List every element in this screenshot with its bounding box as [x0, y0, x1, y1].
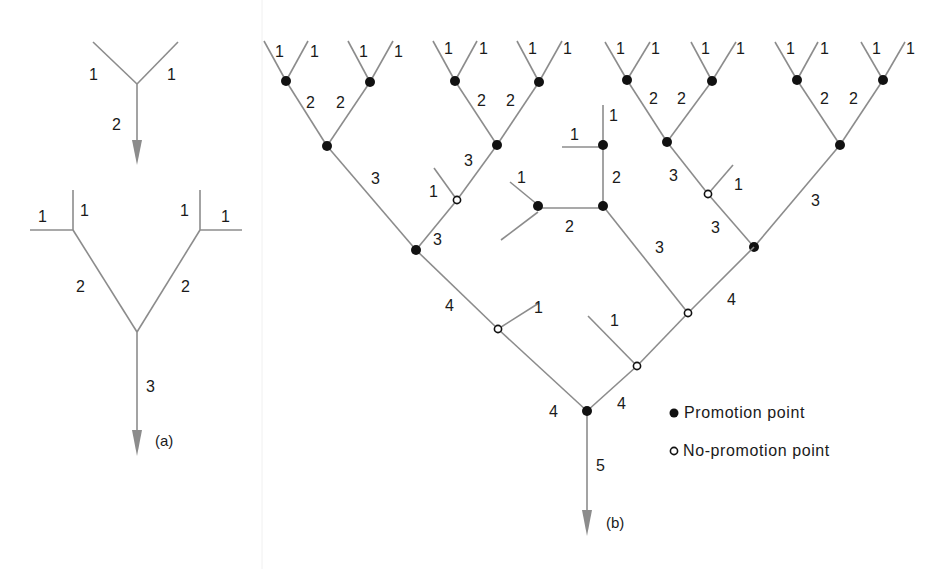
no-promotion-point [633, 362, 640, 369]
edge [539, 41, 562, 82]
label: 1 [563, 40, 572, 57]
label: 3 [146, 378, 155, 395]
label: 1 [310, 43, 319, 60]
subtree-middle: 1 1 2 1 2 3 [501, 105, 688, 313]
edge [498, 329, 587, 411]
edge [501, 212, 538, 240]
edge [455, 41, 477, 81]
label: 2 [565, 218, 574, 235]
label: 4 [617, 395, 626, 412]
label: 1 [38, 208, 47, 225]
label: 1 [786, 40, 795, 57]
edge [327, 82, 370, 146]
label: 1 [444, 40, 453, 57]
edge [286, 41, 308, 81]
edge [754, 145, 840, 247]
edge [416, 250, 498, 329]
stream-order-diagram: 1 1 2 1 1 1 1 2 2 3 (a) [0, 0, 939, 569]
label: 1 [736, 40, 745, 57]
no-promotion-point [453, 196, 460, 203]
promotion-point [534, 77, 544, 87]
promotion-point [622, 75, 632, 85]
label: 1 [610, 312, 619, 329]
promotion-point [450, 76, 460, 86]
label: 1 [394, 43, 403, 60]
label: 4 [445, 297, 454, 314]
panel-b: 1 1 1 1 2 2 3 1 1 1 1 2 2 [264, 40, 915, 536]
label: 2 [649, 90, 658, 107]
label: 4 [727, 291, 736, 308]
edge [603, 206, 688, 313]
label: 2 [612, 169, 621, 186]
promotion-point [281, 76, 291, 86]
label: 1 [89, 66, 98, 83]
edge [498, 303, 539, 329]
edge [457, 145, 497, 200]
promotion-point [878, 75, 888, 85]
label: 1 [80, 202, 89, 219]
panel-a-caption: (a) [155, 432, 173, 449]
promotion-point [835, 140, 845, 150]
arrow-down-icon [132, 140, 142, 165]
legend: Promotion point No-promotion point [670, 404, 830, 459]
edge [93, 42, 137, 84]
label: 1 [479, 40, 488, 57]
promotion-point [582, 406, 592, 416]
legend-item-no-promotion: No-promotion point [670, 442, 829, 459]
label: 2 [849, 90, 858, 107]
edge [455, 81, 497, 145]
panel-a: 1 1 2 1 1 1 1 2 2 3 (a) [30, 42, 242, 456]
edge [708, 165, 733, 194]
edge [883, 42, 905, 80]
promotion-point [322, 141, 332, 151]
edge [712, 42, 736, 81]
no-promotion-point [704, 190, 711, 197]
edge [637, 313, 688, 366]
legend-label: No-promotion point [683, 442, 830, 459]
label: 1 [180, 202, 189, 219]
label: 3 [371, 170, 380, 187]
label: 3 [811, 192, 820, 209]
subtree-g3: 1 1 1 1 2 2 3 1 3 [605, 40, 754, 247]
label: 2 [112, 116, 121, 133]
edge [137, 230, 200, 332]
edge [840, 80, 883, 145]
label: 1 [701, 40, 710, 57]
label: 2 [506, 92, 515, 109]
edge [797, 80, 840, 145]
arrow-down-icon [132, 430, 142, 456]
label: 2 [820, 90, 829, 107]
label: 3 [655, 239, 664, 256]
label: 2 [306, 94, 315, 111]
edge [797, 42, 818, 80]
label: 3 [464, 152, 473, 169]
label: 3 [433, 231, 442, 248]
label: 3 [669, 167, 678, 184]
arrow-down-icon [582, 510, 592, 536]
open-dot-icon [670, 447, 677, 454]
legend-item-promotion: Promotion point [670, 404, 806, 421]
edge [587, 366, 637, 411]
promotion-point [662, 137, 672, 147]
edge [370, 41, 393, 82]
promotion-point [707, 76, 717, 86]
label: 2 [677, 90, 686, 107]
promotion-point [492, 140, 502, 150]
label: 1 [734, 176, 743, 193]
subtree-g1: 1 1 1 1 2 2 3 [264, 41, 416, 250]
edge [688, 247, 754, 313]
edge [327, 146, 416, 250]
promotion-point [365, 77, 375, 87]
edge [627, 80, 667, 142]
label: 1 [609, 107, 618, 124]
main-trunk: 4 1 4 1 4 4 5 (b) [411, 245, 754, 536]
edge [627, 42, 650, 80]
label: 2 [76, 278, 85, 295]
label: 1 [872, 40, 881, 57]
label: 2 [477, 92, 486, 109]
label: 1 [534, 299, 543, 316]
promotion-point [411, 245, 421, 255]
label: 1 [359, 43, 368, 60]
label: 1 [275, 43, 284, 60]
edge [667, 81, 712, 142]
